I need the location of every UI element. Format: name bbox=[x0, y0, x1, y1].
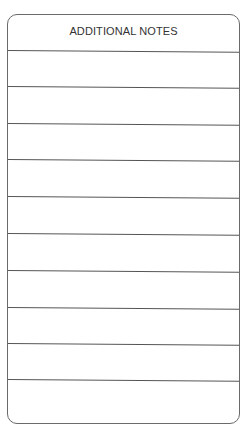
note-line[interactable] bbox=[8, 159, 239, 162]
note-line[interactable] bbox=[8, 307, 239, 310]
notes-card: ADDITIONAL NOTES bbox=[7, 14, 240, 424]
note-line[interactable] bbox=[8, 233, 239, 236]
note-line[interactable] bbox=[8, 123, 239, 126]
note-line[interactable] bbox=[8, 379, 239, 382]
note-line[interactable] bbox=[8, 196, 239, 199]
notes-title: ADDITIONAL NOTES bbox=[8, 25, 239, 37]
note-line[interactable] bbox=[8, 343, 239, 346]
header-divider bbox=[8, 50, 239, 53]
note-line[interactable] bbox=[8, 270, 239, 273]
note-line[interactable] bbox=[8, 86, 239, 89]
